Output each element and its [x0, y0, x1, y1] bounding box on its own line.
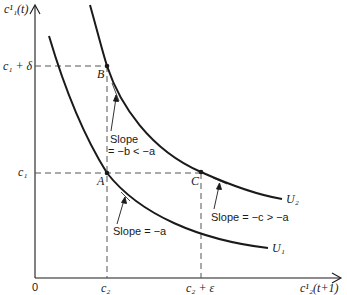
- x-tick-c2-plus-eps: c₂ + ε: [186, 282, 214, 294]
- x-tick-c2: c₂: [101, 282, 111, 294]
- arrow-head-slope-a-icon: [122, 197, 127, 204]
- slope-a-annotation: Slope = −a: [113, 226, 166, 237]
- point-label-C: C: [191, 175, 199, 187]
- y-axis-label: c¹₁(t): [4, 3, 28, 15]
- slope-b-line1: Slope: [110, 134, 138, 145]
- point-C: [199, 170, 204, 175]
- arrow-slope-a: [117, 200, 124, 224]
- point-A: [105, 171, 110, 176]
- y-tick-c1-plus-delta: c₁ + δ: [3, 60, 32, 72]
- curve-U2: [90, 5, 282, 199]
- y-tick-c1: c₁: [18, 166, 28, 178]
- curve-label-U2: U₂: [286, 193, 299, 205]
- points: [105, 64, 204, 176]
- point-B: [105, 64, 110, 69]
- annotation-arrows: [111, 95, 222, 224]
- arrow-slope-b: [111, 98, 116, 131]
- slope-c-annotation: Slope = −c > −a: [211, 212, 289, 223]
- point-label-A: A: [97, 175, 104, 187]
- x-axis-label: c¹₂(t+1): [300, 282, 339, 294]
- arrow-head-slope-c-icon: [217, 183, 222, 190]
- origin-label: 0: [32, 282, 38, 293]
- curve-label-U1: U₁: [272, 242, 285, 254]
- point-label-B: B: [97, 68, 104, 80]
- slope-b-line2: = −b < −a: [108, 146, 155, 157]
- axes: [30, 5, 341, 283]
